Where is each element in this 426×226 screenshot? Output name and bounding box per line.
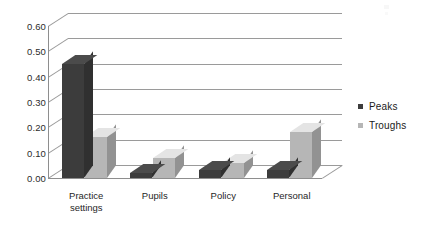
gridline — [68, 114, 342, 115]
y-axis-tick-label: 0.00 — [0, 173, 46, 184]
bar-side-face — [84, 51, 93, 178]
plot-area — [48, 8, 342, 186]
x-axis-line — [48, 178, 322, 179]
y-axis-line — [48, 26, 49, 179]
y-axis-tick-label: 0.50 — [0, 46, 46, 57]
gridline — [68, 38, 342, 39]
legend-item-label: Peaks — [369, 101, 398, 112]
chart-legend: PeaksTroughs — [358, 97, 406, 135]
gridline — [68, 64, 342, 65]
bar-troughs-3 — [290, 132, 312, 178]
y-axis-tick-label: 0.40 — [0, 71, 46, 82]
y-axis-tick-label: 0.30 — [0, 97, 46, 108]
gridline-riser — [48, 38, 69, 52]
bar-face — [62, 64, 84, 178]
floor-right-edge — [322, 165, 343, 179]
y-axis-tick-label: 0.20 — [0, 122, 46, 133]
bar-face — [199, 170, 221, 178]
chart-container: 0.600.500.400.300.200.100.00 Practice se… — [0, 0, 426, 226]
bar-peaks-2 — [199, 170, 221, 178]
x-axis-category-label: Personal — [252, 190, 332, 202]
gridline — [68, 13, 342, 14]
y-axis-tick-label: 0.10 — [0, 147, 46, 158]
y-axis-labels: 0.600.500.400.300.200.100.00 — [0, 0, 46, 226]
bar-peaks-0 — [62, 64, 84, 178]
gridline-riser — [48, 13, 69, 27]
legend-item-label: Troughs — [369, 120, 406, 131]
scan-artifact-icon — [382, 4, 392, 20]
bar-peaks-3 — [267, 170, 289, 178]
bar-face — [267, 170, 289, 178]
bar-peaks-1 — [130, 173, 152, 178]
square-swatch-icon — [358, 104, 363, 109]
y-axis-tick-label: 0.60 — [0, 21, 46, 32]
gridline — [68, 89, 342, 90]
legend-item-troughs[interactable]: Troughs — [358, 116, 406, 135]
bar-face — [290, 132, 312, 178]
bar-face — [130, 173, 152, 178]
square-swatch-icon — [358, 123, 363, 128]
legend-item-peaks[interactable]: Peaks — [358, 97, 406, 116]
